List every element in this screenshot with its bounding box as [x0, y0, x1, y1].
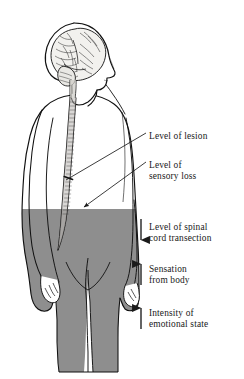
brainstem	[70, 80, 76, 98]
figure-container: Level of lesion Level of sensory loss Le…	[0, 0, 244, 379]
label-level-of-lesion: Level of lesion	[149, 131, 207, 142]
head-profile	[45, 23, 115, 106]
label-level-of-sensory-loss: Level of sensory loss	[149, 160, 196, 182]
label-sensation-from-body: Sensation from body	[149, 264, 190, 286]
label-level-of-spinal-cord-transection: Level of spinal cord transection	[149, 222, 212, 244]
label-intensity-of-emotional-state: Intensity of emotional state	[149, 308, 208, 330]
body-outline	[18, 65, 144, 375]
